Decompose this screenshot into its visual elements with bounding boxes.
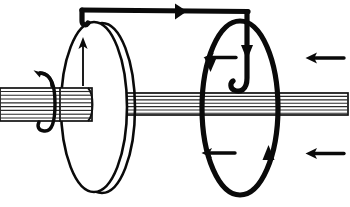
- hook-wire-arrowhead: [241, 45, 253, 60]
- external-circuit-wire: [82, 4, 248, 25]
- physics-diagram-canvas: [0, 0, 350, 207]
- wire-top-run: [82, 10, 248, 12]
- conducting-disk: [60, 22, 135, 193]
- rotating-shaft: [0, 88, 348, 121]
- field-arrow-outer-bottom: [306, 148, 345, 159]
- figure-root: Homopolar generator diagram Horizontal h…: [0, 0, 350, 207]
- wire-current-arrowhead: [175, 4, 187, 20]
- field-arrow-outer-top: [306, 53, 345, 64]
- shaft-right-segment: [92, 93, 348, 115]
